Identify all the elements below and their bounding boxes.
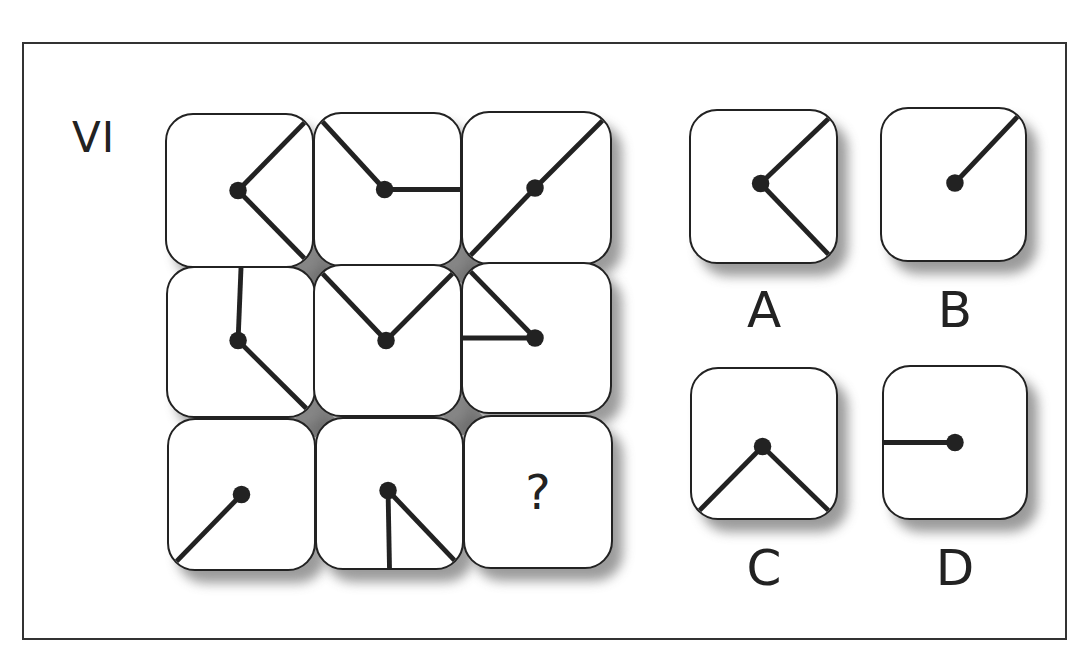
line-segment [238, 122, 305, 191]
tile-figure [463, 113, 610, 263]
grid-tile-r1c3 [461, 111, 612, 265]
line-segment [238, 191, 305, 260]
grid-tile-r2c3 [461, 262, 612, 414]
question-mark: ? [465, 417, 611, 567]
pivot-dot-icon [526, 329, 544, 347]
line-segment [470, 271, 535, 338]
line-segment [388, 491, 389, 568]
line-segment [955, 116, 1018, 183]
option-a-label[interactable]: A [724, 285, 804, 335]
tile-figure [317, 419, 462, 568]
option-c-label[interactable]: C [724, 543, 804, 593]
line-segment [386, 273, 453, 341]
line-segment [763, 446, 830, 511]
pivot-dot-icon [233, 486, 251, 504]
tile-figure [169, 420, 314, 569]
tile-figure [691, 111, 836, 262]
pivot-dot-icon [946, 174, 964, 192]
line-segment [176, 495, 242, 563]
line-segment [322, 121, 385, 190]
pivot-dot-icon [752, 175, 770, 193]
option-a-tile[interactable] [689, 109, 838, 264]
line-segment [761, 183, 830, 255]
tile-figure [168, 268, 314, 416]
line-segment [470, 188, 535, 256]
tile-figure [315, 114, 460, 265]
pivot-dot-icon [229, 332, 247, 350]
tile-figure [884, 367, 1026, 518]
line-segment [322, 273, 386, 341]
pivot-dot-icon [379, 482, 397, 500]
line-segment [238, 268, 241, 340]
tile-figure [463, 264, 610, 412]
puzzle-number: VI [72, 117, 115, 159]
tile-figure [315, 266, 460, 415]
pivot-dot-icon [376, 181, 394, 199]
pivot-dot-icon [754, 438, 772, 456]
grid-tile-r3c1 [167, 418, 316, 571]
grid-tile-r1c1 [165, 113, 314, 268]
option-d-label[interactable]: D [915, 543, 995, 593]
tile-figure [167, 115, 312, 266]
grid-tile-r2c1 [166, 266, 316, 418]
line-segment [535, 120, 603, 188]
tile-figure [692, 369, 836, 518]
pivot-dot-icon [229, 182, 247, 200]
pivot-dot-icon [946, 434, 964, 452]
tile-figure [882, 109, 1025, 260]
pivot-dot-icon [526, 179, 544, 197]
option-b-tile[interactable] [880, 107, 1027, 262]
line-segment [761, 118, 830, 184]
line-segment [238, 341, 307, 410]
line-segment [699, 446, 763, 511]
grid-tile-r3c2 [315, 417, 464, 570]
line-segment [388, 491, 455, 562]
option-b-label[interactable]: B [915, 285, 995, 335]
grid-tile-r1c2 [313, 112, 462, 267]
option-c-tile[interactable] [690, 367, 838, 520]
pivot-dot-icon [377, 332, 395, 350]
grid-tile-r2c2 [313, 264, 462, 417]
grid-tile-r3c3: ? [463, 415, 613, 569]
option-d-tile[interactable] [882, 365, 1028, 520]
